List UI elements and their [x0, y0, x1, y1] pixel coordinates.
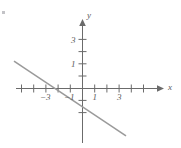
x-axis-arrowhead: [157, 85, 164, 92]
coordinate-plane-svg: [0, 0, 181, 148]
x-tick-label-neg3: −3: [40, 93, 51, 102]
y-axis-arrowhead: [79, 19, 86, 26]
x-tick-label-neg1: −1: [64, 93, 75, 102]
x-axis-label: x: [168, 83, 172, 92]
y-tick-label-3: 3: [71, 36, 76, 45]
y-tick-label-1: 1: [71, 60, 76, 69]
y-axis-label: y: [87, 11, 91, 20]
x-tick-label-3: 3: [117, 93, 122, 102]
x-tick-label-1: 1: [93, 93, 98, 102]
graph-figure: −3 −1 1 3 3 1 y x: [0, 0, 181, 148]
